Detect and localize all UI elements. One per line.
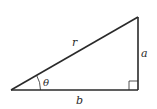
label-a: a xyxy=(141,47,148,60)
label-r: r xyxy=(72,36,78,49)
label-b: b xyxy=(76,94,83,107)
right-angle-marker xyxy=(129,81,138,90)
angle-theta-arc xyxy=(37,75,41,90)
right-triangle-diagram: r a b θ xyxy=(0,0,157,109)
label-theta: θ xyxy=(43,77,49,88)
hypotenuse-r-line xyxy=(11,17,138,90)
